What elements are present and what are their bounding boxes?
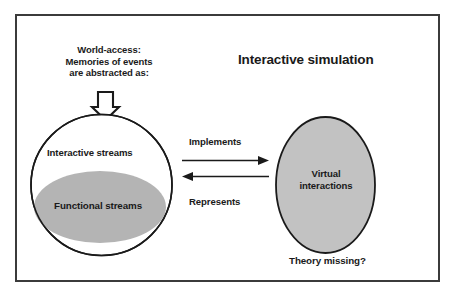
functional-streams-label: Functional streams: [54, 200, 142, 212]
implements-label: Implements: [189, 136, 241, 148]
represents-label: Represents: [189, 196, 240, 208]
world-access-annotation: World-access: Memories of events are abs…: [44, 44, 174, 79]
page-title: Interactive simulation: [238, 52, 374, 68]
virtual-interactions-label: Virtual interactions: [288, 168, 364, 191]
theory-missing-footnote: Theory missing?: [289, 255, 366, 267]
diagram-canvas: World-access: Memories of events are abs…: [0, 0, 456, 298]
interactive-streams-label: Interactive streams: [47, 147, 133, 159]
